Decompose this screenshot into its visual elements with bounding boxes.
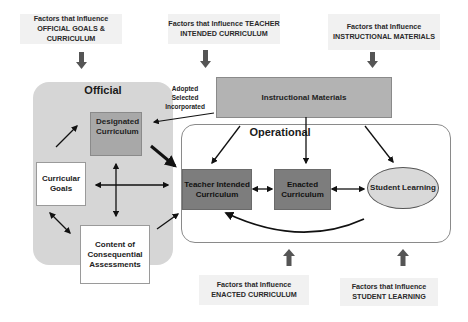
block-arrow-student <box>397 249 409 266</box>
arrow-goals-to-designated <box>56 126 77 147</box>
arrow-materials-to-designated <box>154 113 214 122</box>
block-arrow-enacted <box>283 249 295 266</box>
block-arrow-teacher <box>200 50 211 68</box>
block-arrow-materials <box>367 52 378 68</box>
arrow-materials-to-student <box>365 126 393 162</box>
block-arrow-official <box>76 52 87 69</box>
arrow-feedback-curve <box>226 213 364 232</box>
arrow-assessments-to-teacher <box>157 214 178 229</box>
arrow-designated-to-teacher <box>151 146 175 166</box>
arrow-goals-assessments <box>50 213 70 233</box>
arrows-layer <box>0 0 468 322</box>
arrow-materials-to-teacher <box>212 126 240 163</box>
